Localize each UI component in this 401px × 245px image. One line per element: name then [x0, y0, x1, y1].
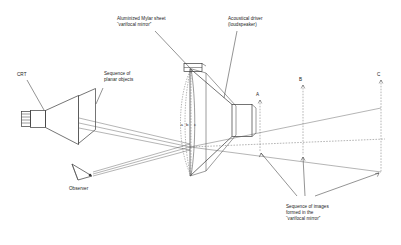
images-caption-line1: Sequence of images [286, 204, 329, 209]
mylar-label-line2: “varifocal mirror” [117, 22, 152, 27]
images-caption-line3: “varifocal mirror” [286, 216, 321, 221]
planar-objects-label-line1: Sequence of [104, 71, 131, 76]
observer-pupil [89, 174, 92, 177]
diagram-background [0, 0, 401, 245]
driver-label-line1: Acoustical driver [228, 16, 263, 21]
image-plane-b-label: B [299, 77, 302, 82]
varifocal-mirror-diagram: CRT Sequence of planar objects [0, 0, 401, 245]
observer-label: Observer [69, 186, 89, 191]
images-caption-line2: formed in the [286, 210, 314, 215]
driver-label-line2: (loudspeaker) [228, 22, 257, 27]
planar-objects-label-line2: planar objects [104, 77, 134, 82]
mylar-label-line1: Aluminized Mylar sheet [117, 16, 166, 21]
crt-label: CRT [17, 72, 27, 77]
